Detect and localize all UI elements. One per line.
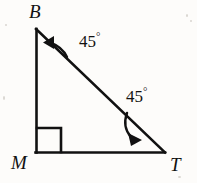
vertex-label-t: T	[170, 155, 181, 174]
degree-symbol-b: °	[96, 30, 100, 42]
angle-label-b: 45°	[79, 31, 100, 50]
triangle-drawing	[0, 0, 197, 183]
right-angle-marker	[37, 128, 61, 152]
angle-value-t: 45	[126, 87, 143, 106]
angle-value-b: 45	[79, 32, 96, 51]
geometry-figure: B M T 45° 45°	[0, 0, 197, 183]
vertex-label-b: B	[29, 2, 41, 21]
vertex-label-m: M	[11, 153, 27, 172]
angle-label-t: 45°	[126, 86, 147, 105]
degree-symbol-t: °	[143, 85, 147, 97]
